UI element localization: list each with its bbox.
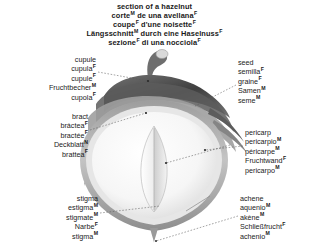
title-line-es: corteM de una avellanaF [0,11,309,20]
gender-marker: F [197,37,201,43]
gender-marker: F [283,155,287,161]
label-term: achenio [240,232,265,241]
label-term: pericarpio [245,137,277,146]
gender-marker: M [277,136,282,142]
title-rest-it: di una nocciola [140,38,197,47]
label-term: Schließfrucht [240,222,282,231]
label-line-stigma-0: stigma [0,194,98,203]
label-term: cupola [71,93,92,102]
title-line-fr: coupeF d'une noisetteF [0,20,309,29]
label-term: Narbe [75,222,95,231]
label-line-cupule-0: cupule [0,55,96,64]
gender-marker: M [275,164,280,170]
label-term: Fruchtbecher [49,83,91,92]
label-term: péricarpe [245,147,275,156]
label-term: cupula [71,64,92,73]
title-rest-de: durch eine Haselnuss [138,29,219,38]
label-group-seed: seedsemillaFgraineFSamenMsemeM [238,58,309,105]
title-rest-es: de una avellana [135,11,194,20]
gender-marker: F [194,10,198,16]
label-line-achene-1: aquenioM [240,203,309,212]
label-line-achene-0: achene [240,194,309,203]
label-term: stigmate [66,213,93,222]
label-group-achene: acheneaquenioMakèneMSchließfruchtFacheni… [240,194,309,241]
label-term: bractée [60,131,84,140]
label-line-bract-4: bratteaF [0,150,88,159]
label-line-cupule-4: cupolaF [0,93,96,102]
diagram-canvas: section of a hazelnut corteM de una avel… [0,0,309,250]
label-term: stigma [72,232,93,241]
label-line-pericarp-2: péricarpeM [245,147,309,156]
gender-marker: F [192,19,196,25]
label-term: pericarp [245,128,271,137]
label-line-seed-3: SamenM [238,86,309,95]
diagram-title: section of a hazelnut corteM de una avel… [0,2,309,47]
stigma-stalk [147,50,168,80]
nut-body-group [80,50,247,244]
title-term-fr: coupe [113,20,135,29]
label-line-achene-2: akèneM [240,213,309,222]
label-line-stigma-1: estigmaM [0,203,98,212]
label-line-achene-3: SchließfruchtF [240,222,309,231]
label-line-achene-4: achenioM [240,232,309,241]
gender-marker: M [275,145,280,151]
gender-marker: M [256,94,261,100]
label-line-bract-1: brácteaF [0,121,88,130]
gender-marker: F [94,221,98,227]
dot-achene [155,240,157,242]
label-line-seed-1: semillaF [238,67,309,76]
title-rest-fr: d'une noisette [139,20,192,29]
label-term: seed [238,58,254,67]
label-group-cupule: cupulecupulaFcupuleFFruchtbecherMcupolaF [0,55,96,102]
label-term: estigma [68,203,93,212]
title-term-it: sezione [108,38,136,47]
title-line-it: sezioneF di una nocciolaF [0,38,309,47]
dot-cupule [147,80,149,82]
label-term: pericarpo [245,166,275,175]
label-line-bract-3: DeckblattN [0,140,88,149]
gender-marker: F [84,148,88,154]
label-line-seed-2: graineF [238,77,309,86]
gender-marker: F [84,129,88,135]
label-line-bract-0: bract [0,112,88,121]
gender-marker: M [93,211,98,217]
label-term: brattea [62,150,84,159]
gender-marker: M [260,211,265,217]
title-term-es: corte [112,11,131,20]
label-term: cupule [71,74,92,83]
gender-marker: F [92,63,96,69]
label-term: akène [240,213,260,222]
gender-marker: F [219,28,223,34]
label-group-bract: bractbrácteaFbractéeFDeckblattNbratteaF [0,112,88,159]
label-term: bráctea [60,121,84,130]
gender-marker: F [92,91,96,97]
label-term: graine [238,77,258,86]
gender-marker: M [91,82,96,88]
label-term: seme [238,96,256,105]
label-line-stigma-3: NarbeF [0,222,98,231]
label-term: achene [240,194,264,203]
label-line-stigma-2: stigmateM [0,213,98,222]
label-line-pericarp-4: pericarpoM [245,166,309,175]
label-line-cupule-1: cupulaF [0,64,96,73]
label-line-seed-4: semeM [238,96,309,105]
gender-marker: F [258,75,262,81]
gender-marker: M [261,85,266,91]
gender-marker: M [93,230,98,236]
gender-marker: M [93,202,98,208]
label-group-pericarp: pericarppericarpioMpéricarpeMFruchtwandF… [245,128,309,175]
gender-marker: M [265,230,270,236]
label-line-bract-2: bractéeF [0,131,88,140]
gender-marker: F [92,72,96,78]
gender-marker: F [84,120,88,126]
dot-pericarp [204,149,206,151]
dot-bract [145,112,147,114]
label-line-cupule-2: cupuleF [0,74,96,83]
label-term: Deckblatt [54,140,84,149]
label-line-seed-0: seed [238,58,309,67]
title-line-de: LängsschnittM durch eine HaselnussF [0,29,309,38]
label-line-stigma-4: stigmaM [0,232,98,241]
title-line-en: section of a hazelnut [0,2,309,11]
title-term-de: Längsschnitt [86,29,133,38]
gender-marker: F [282,221,286,227]
